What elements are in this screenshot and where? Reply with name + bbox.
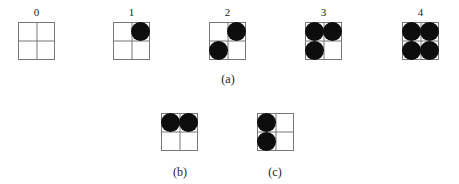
dot-bottom-left <box>257 132 276 151</box>
dot-top-left <box>402 22 421 41</box>
grid-1 <box>113 22 150 60</box>
dot-top-right <box>131 22 150 41</box>
grid-b <box>161 113 198 151</box>
dot-bottom-right <box>420 41 439 60</box>
dot-top-left <box>161 113 180 132</box>
grid-divider <box>19 41 54 42</box>
grid-0 <box>18 22 55 60</box>
dot-bottom-left <box>305 41 324 60</box>
dot-top-left <box>305 22 324 41</box>
caption-c: (c) <box>255 165 295 180</box>
dot-bottom-left <box>402 41 421 60</box>
grid-label-2: 2 <box>209 6 246 18</box>
grid-label-1: 1 <box>113 6 150 18</box>
caption-b: (b) <box>160 165 200 180</box>
dot-top-right <box>179 113 198 132</box>
dot-top-right <box>323 22 342 41</box>
dot-top-left <box>257 113 276 132</box>
grid-label-4: 4 <box>402 6 439 18</box>
dot-bottom-left <box>209 41 228 60</box>
dot-top-right <box>420 22 439 41</box>
grid-label-3: 3 <box>305 6 342 18</box>
grid-c <box>257 113 294 151</box>
grid-divider <box>114 41 149 42</box>
dot-top-right <box>227 22 246 41</box>
grid-4 <box>402 22 439 60</box>
grid-label-0: 0 <box>18 6 55 18</box>
grid-2 <box>209 22 246 60</box>
grid-3 <box>305 22 342 60</box>
caption-a: (a) <box>208 72 248 87</box>
